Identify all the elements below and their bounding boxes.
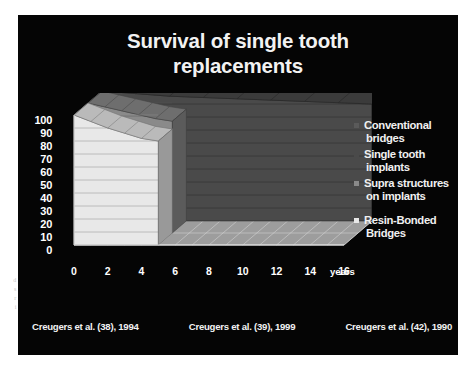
slide-panel: Survival of single tooth replacements 01… <box>18 15 458 355</box>
legend-label: on implants <box>364 190 458 203</box>
legend-label: Resin-Bonded <box>364 214 458 227</box>
legend-item-resin-bonded-bridges: Resin-BondedBridges <box>354 214 458 240</box>
y-axis-tick: 70 <box>18 154 52 165</box>
legend-label: bridges <box>364 132 458 145</box>
y-axis-tick: 50 <box>18 180 52 191</box>
legend-swatch-icon <box>354 123 359 128</box>
legend-swatch-icon <box>354 181 359 186</box>
legend-label: Bridges <box>364 227 458 240</box>
y-axis-tick: 60 <box>18 167 52 178</box>
citations-row: Creugers et al. (38), 1994 Creugers et a… <box>32 321 452 333</box>
y-axis: 0102030405060708090100 <box>18 115 52 260</box>
page-title: Survival of single tooth replacements <box>64 28 412 78</box>
x-axis: years 0246810121416 <box>18 265 378 281</box>
x-axis-tick: 6 <box>162 265 188 277</box>
y-axis-tick: 40 <box>18 193 52 204</box>
y-axis-tick: 0 <box>18 245 52 256</box>
legend-item-conventional-bridges: Conventionalbridges <box>354 119 458 145</box>
x-axis-tick: 16 <box>331 265 357 277</box>
y-axis-tick: 80 <box>18 141 52 152</box>
title-line-2: replacements <box>64 53 412 78</box>
legend-item-single-tooth-implants: Single toothimplants <box>354 148 458 174</box>
x-axis-tick: 0 <box>61 265 87 277</box>
legend-label: Single tooth <box>364 148 458 161</box>
y-axis-tick: 10 <box>18 232 52 243</box>
y-axis-tick: 30 <box>18 206 52 217</box>
x-axis-tick: 12 <box>264 265 290 277</box>
legend-item-supra-structures-on-implants: Supra structureson implants <box>354 177 458 203</box>
x-axis-tick: 14 <box>297 265 323 277</box>
y-axis-tick: 100 <box>18 115 52 126</box>
legend-swatch-icon <box>354 152 359 157</box>
x-axis-tick: 10 <box>230 265 256 277</box>
page-margin-artifacts: d s r i <box>0 276 18 338</box>
citation-3: Creugers et al. (42), 1990 <box>345 321 452 333</box>
margin-artifact-line: r <box>0 294 16 303</box>
legend-swatch-icon <box>354 218 359 223</box>
margin-artifact-line: d <box>0 276 16 285</box>
legend-label: implants <box>364 161 458 174</box>
margin-artifact-line: s <box>0 285 16 294</box>
legend-label: Conventional <box>364 119 458 132</box>
x-axis-tick: 8 <box>196 265 222 277</box>
chart-legend: ConventionalbridgesSingle toothimplantsS… <box>354 119 458 243</box>
title-line-1: Survival of single tooth <box>64 28 412 53</box>
x-axis-tick: 4 <box>129 265 155 277</box>
margin-artifact-line: i <box>0 303 16 312</box>
citation-2: Creugers et al. (39), 1999 <box>189 321 296 333</box>
chart-plot <box>52 93 372 268</box>
y-axis-tick: 90 <box>18 128 52 139</box>
x-axis-tick: 2 <box>95 265 121 277</box>
legend-label: Supra structures <box>364 177 458 190</box>
y-axis-tick: 20 <box>18 219 52 230</box>
citation-1: Creugers et al. (38), 1994 <box>32 321 139 333</box>
